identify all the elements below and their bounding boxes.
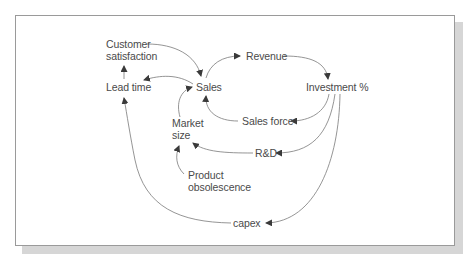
edge-sales-to-revenue	[206, 56, 240, 78]
edge-revenue-to-investment	[284, 56, 328, 79]
edge-product-obsolescence-to-market-size	[177, 146, 184, 174]
edge-market-size-to-sales	[179, 87, 193, 117]
edge-sales-to-lead-time	[144, 76, 193, 84]
node-investment: Investment %	[306, 81, 368, 93]
node-sales: Sales	[196, 81, 222, 93]
edge-investment-to-capex	[266, 94, 340, 223]
node-lead-time: Lead time	[106, 81, 151, 93]
node-product-obsolescence: Product obsolescence	[188, 169, 251, 193]
edge-investment-to-sales-force	[291, 94, 329, 121]
edge-rnd-to-market-size	[193, 143, 253, 153]
node-customer-satisfaction: Customer satisfaction	[106, 38, 157, 62]
node-rnd: R&D	[255, 147, 277, 159]
node-capex: capex	[233, 217, 261, 229]
node-revenue: Revenue	[246, 50, 287, 62]
edge-sales-force-to-sales	[206, 96, 238, 121]
node-market-size: Market size	[172, 117, 204, 141]
node-sales-force: Sales force	[242, 115, 293, 127]
